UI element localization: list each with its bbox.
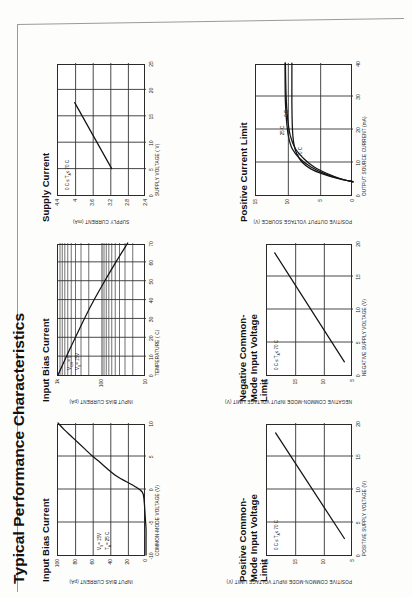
x-tick-label: 10 [355, 307, 361, 312]
x-tick-label: 25 [148, 61, 154, 66]
x-axis-label: NEGATIVE SUPPLY VOLTAGE (V) [362, 299, 367, 376]
chart-title: Supply Current [40, 153, 51, 222]
curve-label: 25 C [280, 126, 285, 136]
y-axis-label: POSITIVE OUTPUT VOLTAGE SOURCE (V) [255, 219, 352, 224]
plot-annotation: 0 C ≤ TA≤ 70 C [65, 160, 73, 190]
x-tick-label: 20 [355, 421, 361, 426]
chart-title: Positive Current Limit [238, 122, 249, 222]
page-title: Typical Performance Characteristics [10, 313, 28, 584]
plot-annotation: 0 C ≤ TA≤ 70 C [274, 340, 282, 370]
x-tick-label: 0 [355, 195, 361, 198]
x-tick-label: 10 [355, 487, 361, 492]
x-tick-label: 10 [148, 140, 154, 145]
x-tick-label: 20 [355, 127, 361, 132]
plot-annotation: 0 C ≤ TA≤ 70 C [274, 520, 282, 550]
x-tick-label: 10 [148, 421, 154, 426]
x-axis-label: OUTPUT SOURCE CURRENT (mA) [362, 116, 367, 196]
x-tick-label: 30 [148, 317, 154, 322]
plot-annotation: VCM= 0VS= 15V [67, 353, 83, 370]
x-tick-label: 20 [355, 241, 361, 246]
x-axis-label: POSITIVE SUPPLY VOLTAGE (V) [362, 481, 367, 556]
x-tick-label: 15 [355, 274, 361, 279]
curve-label: 0 C [284, 110, 289, 117]
x-tick-label: 5 [148, 456, 154, 459]
x-axis-label: COMMON-MODE VOLTAGE (V) [155, 485, 160, 556]
curve-label: 70 C [298, 147, 303, 157]
x-tick-label: 5 [355, 522, 361, 525]
x-tick-label: 60 [148, 260, 154, 265]
x-tick-label: 15 [148, 114, 154, 119]
x-tick-label: 50 [148, 279, 154, 284]
x-tick-label: -5 [148, 521, 154, 525]
x-tick-label: 0 [355, 375, 361, 378]
x-tick-label: 70 [148, 241, 154, 246]
x-tick-label: 20 [148, 88, 154, 93]
x-tick-label: 5 [355, 342, 361, 345]
x-axis-label: TEMPERATURE ( C) [155, 330, 160, 377]
x-tick-label: 15 [355, 454, 361, 459]
x-tick-label: 10 [148, 354, 154, 359]
rotated-page-content: Typical Performance Characteristics Inpu… [0, 0, 412, 598]
y-axis-label: NEGATIVE COMMON-MODE INPUT VOLTAGE LIMIT… [266, 399, 352, 404]
x-tick-label: 10 [355, 160, 361, 165]
x-tick-label: 5 [148, 168, 154, 171]
chart-title: Input Bias Current [40, 318, 51, 402]
x-tick-label: -10 [148, 552, 154, 559]
plot-area [255, 64, 352, 196]
x-tick-label: 30 [355, 94, 361, 99]
x-tick-label: 0 [355, 555, 361, 558]
chart-title: Input Bias Current [40, 498, 51, 582]
plot-annotation: VS= 15VTA= 25 C [97, 532, 113, 550]
x-tick-label: 0 [148, 375, 154, 378]
x-tick-label: 40 [355, 61, 361, 66]
datasheet-page: Typical Performance Characteristics Inpu… [0, 0, 412, 598]
y-axis-label: INPUT BIAS CURRENT (pA) [57, 399, 145, 404]
x-tick-label: 20 [148, 336, 154, 341]
y-axis-label: POSITIVE COMMON-MODE INPUT VOLTAGE LIMIT… [266, 579, 352, 584]
y-axis-label: SUPPLY CURRENT (mA) [57, 219, 145, 224]
x-tick-label: 40 [148, 298, 154, 303]
x-tick-label: 0 [148, 195, 154, 198]
x-tick-label: 0 [148, 489, 154, 492]
y-axis-label: INPUT BIAS CURRENT (pA) [57, 579, 145, 584]
x-axis-label: SUPPLY VOLTAGE ( V) [155, 144, 160, 196]
